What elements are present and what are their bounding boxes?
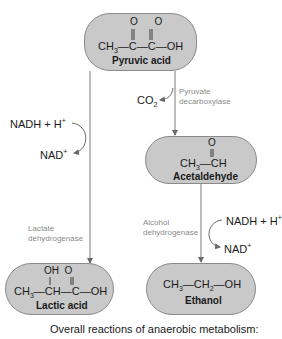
ethanol-formula: CH3—CH2—OH — [163, 278, 241, 292]
lactic-acid-formula: CH3—CH—C—OH — [14, 285, 107, 299]
figure-caption: Overall reactions of anaerobic metabolis… — [50, 323, 258, 335]
lactic-acid-label: Lactic acid — [36, 300, 88, 311]
ethanol-label: Ethanol — [185, 295, 222, 306]
